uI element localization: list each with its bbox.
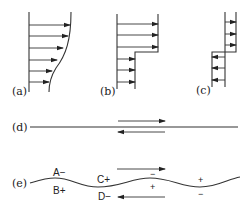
label-d-minus: D−: [98, 191, 111, 202]
sign-trough-below: −: [198, 189, 203, 199]
velocity-profile-curve: [49, 12, 71, 92]
shear-flow-diagram: (a) (b) (c) (d) (e) A− B+: [0, 0, 252, 211]
sign-trough-above: +: [198, 175, 203, 185]
label-a-minus: A−: [53, 167, 66, 178]
panel-b: (b): [100, 14, 158, 98]
label-c-plus: C+: [97, 174, 110, 185]
panel-d: (d): [12, 121, 238, 134]
panel-label-b: (b): [100, 85, 116, 98]
panel-label-a: (a): [12, 85, 27, 98]
panel-label-e: (e): [12, 177, 27, 190]
panel-label-c: (c): [196, 84, 211, 97]
panel-c: (c): [196, 12, 236, 97]
sign-crest-above: −: [150, 169, 155, 179]
step-profile-line: [135, 14, 158, 89]
label-b-plus: B+: [53, 185, 66, 196]
sign-crest-below: +: [150, 182, 155, 192]
panel-label-d: (d): [12, 121, 28, 134]
panel-a: (a): [12, 12, 71, 98]
panel-e: (e) A− B+ C+ D− − + + −: [12, 167, 240, 202]
shear-profile-line: [212, 12, 236, 87]
